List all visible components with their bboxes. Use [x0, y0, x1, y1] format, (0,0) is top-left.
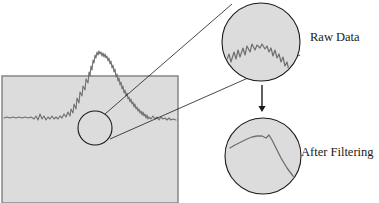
after-filtering-circle: [225, 118, 301, 194]
spectrum-panel: [2, 76, 178, 203]
raw-data-label: Raw Data: [310, 30, 360, 44]
downward-arrow-head: [258, 106, 265, 112]
raw-data-circle: [222, 3, 300, 81]
figure-root: Raw Data After Filtering: [0, 0, 379, 203]
signal-figure: Raw Data After Filtering: [0, 0, 379, 203]
after-filtering-label: After Filtering: [301, 145, 374, 159]
